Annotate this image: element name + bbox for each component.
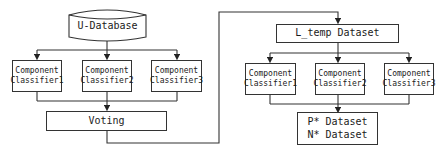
- left-classifier-3-line2: Classifier3: [150, 76, 203, 86]
- right-classifier-2-line1: Component: [318, 69, 361, 79]
- right-classifier-1-line1: Component: [249, 69, 292, 79]
- l-temp-dataset-label: L_temp Dataset: [295, 27, 379, 40]
- l-temp-dataset-box: L_temp Dataset: [276, 24, 399, 43]
- left-classifier-1-line2: Classifier1: [11, 76, 64, 86]
- left-classifier-3: Component Classifier3: [151, 60, 202, 92]
- right-classifier-3-line1: Component: [387, 69, 430, 79]
- p-dataset-label: P* Dataset: [307, 116, 367, 129]
- left-classifier-2: Component Classifier2: [82, 60, 132, 92]
- right-classifier-2-line2: Classifier2: [314, 79, 367, 89]
- right-classifier-3: Component Classifier3: [384, 63, 434, 95]
- left-classifier-1-line1: Component: [15, 66, 58, 76]
- n-dataset-label: N* Dataset: [307, 129, 367, 142]
- right-classifier-1: Component Classifier1: [245, 63, 296, 95]
- right-classifier-2: Component Classifier2: [315, 63, 365, 95]
- output-dataset-box: P* Dataset N* Dataset: [297, 112, 378, 145]
- right-classifier-1-line2: Classifier1: [244, 79, 297, 89]
- voting-box: Voting: [46, 111, 167, 131]
- right-classifier-3-line2: Classifier3: [383, 79, 436, 89]
- u-database-label: U-Database: [69, 20, 146, 31]
- left-classifier-2-line2: Classifier2: [81, 76, 134, 86]
- left-classifier-1: Component Classifier1: [12, 60, 62, 92]
- left-classifier-2-line1: Component: [85, 66, 128, 76]
- voting-label: Voting: [88, 115, 124, 128]
- left-classifier-3-line1: Component: [155, 66, 198, 76]
